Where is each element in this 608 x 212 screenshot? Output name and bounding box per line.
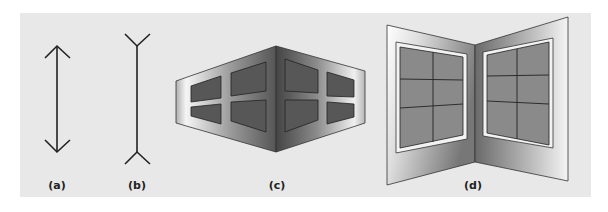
panel-d-label: (d) xyxy=(464,179,482,192)
figure: (a) (b) (c) xyxy=(0,0,608,212)
panel-b-label: (b) xyxy=(128,179,146,192)
panel-c-label: (c) xyxy=(269,179,286,192)
panel-a-label: (a) xyxy=(48,179,65,192)
